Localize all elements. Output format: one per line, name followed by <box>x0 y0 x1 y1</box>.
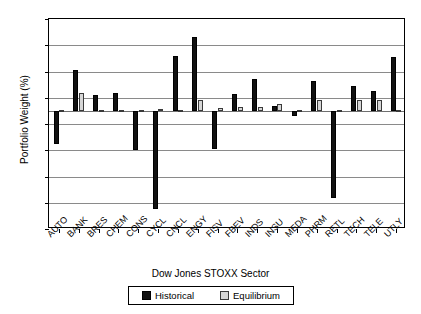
bar-engy-equilibrium <box>198 100 203 111</box>
bar-utly-equilibrium <box>396 110 401 112</box>
bar-inds-historical <box>252 79 257 111</box>
bar-meda-equilibrium <box>297 110 302 112</box>
bar-fisv-equilibrium <box>218 108 223 111</box>
bar-cons-historical <box>133 111 138 150</box>
bar-tele-equilibrium <box>377 100 382 111</box>
bar-cncl-equilibrium <box>178 110 183 112</box>
bar-cons-equilibrium <box>139 110 144 112</box>
legend-item-historical: Historical <box>142 290 194 301</box>
chart-legend: Historical Equilibrium <box>128 286 294 305</box>
y-tick-mark <box>45 150 49 151</box>
y-tick-mark <box>45 19 49 20</box>
legend-label-equilibrium: Equilibrium <box>233 290 280 301</box>
bar-tele-historical <box>371 91 376 111</box>
legend-item-equilibrium: Equilibrium <box>220 290 280 301</box>
bar-engy-historical <box>192 37 197 111</box>
gridline <box>49 150 404 151</box>
y-tick-mark <box>45 124 49 125</box>
legend-swatch-equilibrium-icon <box>220 291 229 300</box>
gridline <box>49 72 404 73</box>
gridline <box>49 203 404 204</box>
bar-retl-equilibrium <box>337 110 342 112</box>
bar-retl-historical <box>331 111 336 198</box>
bar-inds-equilibrium <box>258 107 263 111</box>
legend-swatch-historical-icon <box>142 291 151 300</box>
bar-cncl-historical <box>173 56 178 111</box>
y-tick-mark <box>45 98 49 99</box>
bar-meda-historical <box>292 111 297 116</box>
bar-chem-historical <box>113 93 118 111</box>
bar-cycl-historical <box>153 111 158 209</box>
gridline <box>49 124 404 125</box>
bar-tech-equilibrium <box>357 100 362 111</box>
bar-fbev-historical <box>232 94 237 111</box>
gridline <box>49 45 404 46</box>
legend-label-historical: Historical <box>155 290 194 301</box>
bar-fisv-historical <box>212 111 217 149</box>
plot-area <box>48 18 405 228</box>
bar-insu-equilibrium <box>277 104 282 111</box>
y-axis-title: Portfolio Weight (%) <box>19 40 30 200</box>
bar-auto-equilibrium <box>59 110 64 112</box>
bar-fbev-equilibrium <box>238 107 243 111</box>
y-tick-mark <box>45 177 49 178</box>
bar-chem-equilibrium <box>119 110 124 112</box>
bar-chart: Portfolio Weight (%) Dow Jones STOXX Sec… <box>0 0 421 314</box>
bar-bres-equilibrium <box>99 110 104 112</box>
bar-insu-historical <box>272 106 277 111</box>
x-axis-title: Dow Jones STOXX Sector <box>0 268 421 279</box>
gridline <box>49 177 404 178</box>
bar-phrm-equilibrium <box>317 100 322 111</box>
bar-utly-historical <box>391 57 396 111</box>
bar-bank-historical <box>73 70 78 111</box>
bar-auto-historical <box>54 111 59 144</box>
bar-cycl-equilibrium <box>158 109 163 111</box>
bar-bres-historical <box>93 95 98 111</box>
y-tick-mark <box>45 203 49 204</box>
y-tick-mark <box>45 45 49 46</box>
y-tick-mark <box>45 72 49 73</box>
bar-phrm-historical <box>311 81 316 111</box>
bar-tech-historical <box>351 86 356 111</box>
bar-bank-equilibrium <box>79 93 84 111</box>
